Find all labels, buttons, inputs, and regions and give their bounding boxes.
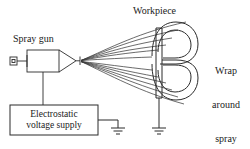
streamline-down-3 <box>81 62 166 84</box>
supply-label-line-1: Electrostatic <box>30 109 77 120</box>
label-spray-gun: Spray gun <box>13 33 54 44</box>
gun-taper <box>59 50 76 72</box>
streamline-down-5 <box>81 62 178 98</box>
gun-body <box>27 50 59 72</box>
label-wrap-around-line-1: Wrap <box>205 65 247 76</box>
label-wrap-around-spray: Wrap around spray <box>205 43 247 149</box>
ground-symbol-supply <box>111 128 125 134</box>
workpiece-inner-upper <box>158 30 191 58</box>
gun-rear-connector <box>10 57 17 65</box>
ground-symbol-workpiece <box>152 128 166 134</box>
gun-rear-connector-inner <box>12 60 15 63</box>
label-wrap-around-line-3: spray <box>205 133 247 144</box>
label-workpiece: Workpiece <box>133 5 176 16</box>
label-wrap-around-line-2: around <box>205 99 247 110</box>
workpiece-group <box>152 22 198 128</box>
label-electrostatic-voltage-supply: Electrostatic voltage supply <box>10 105 98 135</box>
electrostatic-spray-diagram: Spray gun Workpiece Wrap around spray El… <box>0 0 250 149</box>
spray-gun-group <box>10 50 80 105</box>
supply-label-line-2: voltage supply <box>26 120 82 131</box>
